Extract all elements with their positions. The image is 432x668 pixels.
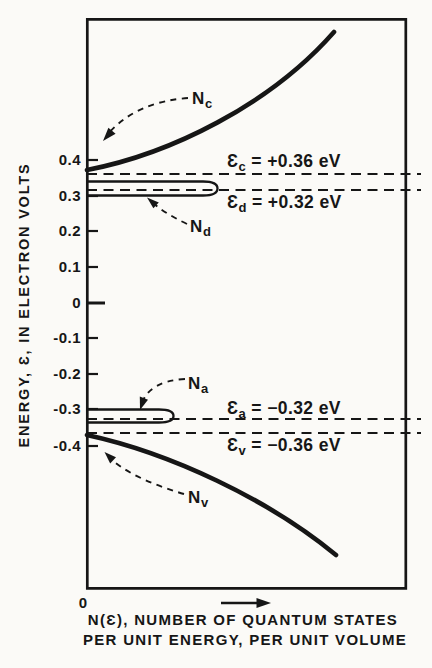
- ed-value: = +0.32 eV: [247, 192, 342, 212]
- tick-label: -0.3: [53, 400, 81, 417]
- nv-label: Nv: [188, 488, 209, 510]
- annotation-arrows: [107, 98, 188, 494]
- x-direction-arrow-icon: [221, 598, 271, 608]
- x-origin-label: 0: [79, 594, 87, 611]
- nd-label-sub: d: [203, 224, 212, 239]
- ea-value-label: Ɛa = −0.32 eV: [227, 398, 341, 421]
- na-label-main: N: [188, 374, 201, 393]
- na-arrowhead-icon: [140, 397, 148, 411]
- nc-arrowhead-icon: [103, 128, 116, 141]
- ev-value-label: Ɛv = −0.36 eV: [227, 435, 341, 458]
- nd-label-main: N: [190, 217, 203, 236]
- ev-value: = −0.36 eV: [246, 435, 341, 455]
- y-axis-title: ENERGY, Ɛ, IN ELECTRON VOLTS: [16, 163, 32, 448]
- ea-symbol: Ɛ: [227, 398, 238, 418]
- tick-label: -0.2: [53, 365, 81, 382]
- na-arrow: [142, 379, 185, 403]
- nc-label: Nc: [192, 89, 213, 111]
- tick-label: 0.2: [59, 222, 81, 239]
- nd-label: Nd: [190, 217, 212, 239]
- nd-spike: [87, 182, 218, 196]
- density-of-states-figure: 0.4 0.3 0.2 0.1 0 -0.1 -0.2 -0.3 -0.4 EN…: [0, 0, 432, 668]
- tick-label: -0.4: [53, 437, 81, 454]
- tick-label: 0.4: [59, 151, 82, 168]
- nc-arrow: [107, 98, 188, 135]
- na-label-sub: a: [201, 381, 209, 396]
- ec-symbol: Ɛ: [227, 151, 238, 171]
- y-axis-tick-labels: 0.4 0.3 0.2 0.1 0 -0.1 -0.2 -0.3 -0.4: [53, 151, 81, 454]
- textbook-figure-page: 0.4 0.3 0.2 0.1 0 -0.1 -0.2 -0.3 -0.4 EN…: [0, 0, 432, 668]
- ev-symbol: Ɛ: [227, 435, 238, 455]
- y-axis-ticks: [88, 160, 105, 446]
- tick-label: 0: [72, 294, 81, 311]
- nv-label-sub: v: [201, 495, 209, 510]
- ed-value-label: Ɛd = +0.32 eV: [227, 192, 342, 215]
- na-spike: [87, 410, 174, 423]
- tick-label: 0.1: [59, 258, 81, 275]
- nc-label-main: N: [192, 89, 205, 108]
- tick-label: 0.3: [59, 187, 81, 204]
- ed-subscript: d: [238, 200, 246, 215]
- nc-label-sub: c: [205, 96, 213, 111]
- annotation-arrowheads: [103, 128, 159, 464]
- energy-level-lines: [87, 174, 421, 433]
- tick-label: -0.1: [53, 329, 81, 346]
- nv-arrowhead-icon: [105, 452, 117, 464]
- ea-value: = −0.32 eV: [246, 398, 341, 418]
- na-label: Na: [188, 374, 209, 396]
- x-axis-caption-line1: N(Ɛ), NUMBER OF QUANTUM STATES: [88, 611, 398, 628]
- ed-symbol: Ɛ: [227, 192, 238, 212]
- ec-value: = +0.36 eV: [246, 151, 341, 171]
- nv-label-main: N: [188, 488, 201, 507]
- ec-value-label: Ɛc = +0.36 eV: [227, 151, 341, 174]
- x-axis-caption-line2: PER UNIT ENERGY, PER UNIT VOLUME: [83, 631, 407, 648]
- ec-subscript: c: [238, 159, 246, 174]
